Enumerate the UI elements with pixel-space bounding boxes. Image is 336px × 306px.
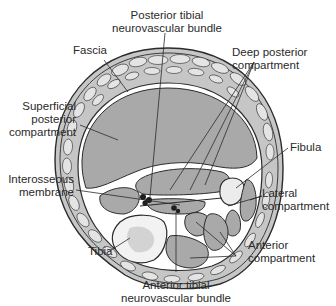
- label-line: neurovascular bundle: [112, 22, 222, 35]
- label-interosseous-membrane: Interosseous membrane: [0, 173, 74, 199]
- label-fascia: Fascia: [73, 44, 107, 57]
- label-line: Superficial: [0, 100, 76, 113]
- label-line: Deep posterior: [232, 46, 307, 59]
- label-line: compartment: [248, 252, 315, 265]
- label-line: Anterior tibial: [120, 279, 232, 292]
- label-line: neurovascular bundle: [120, 292, 232, 305]
- label-deep-posterior-compartment: Deep posterior compartment: [232, 46, 307, 72]
- label-anterior-tibial-bundle: Anterior tibial neurovascular bundle: [120, 279, 232, 305]
- label-line: Fibula: [290, 141, 321, 154]
- label-line: Tibia: [88, 245, 113, 258]
- label-line: Anterior: [248, 239, 315, 252]
- label-superficial-posterior-compartment: Superficial posterior compartment: [0, 100, 76, 139]
- label-anterior-compartment: Anterior compartment: [248, 239, 315, 265]
- label-line: compartment: [0, 126, 76, 139]
- label-line: compartment: [232, 59, 307, 72]
- label-line: Fascia: [73, 44, 107, 57]
- label-line: membrane: [0, 186, 74, 199]
- label-line: Lateral: [262, 187, 329, 200]
- label-line: posterior: [0, 113, 76, 126]
- label-line: Posterior tibial: [112, 9, 222, 22]
- label-line: Interosseous: [0, 173, 74, 186]
- label-tibia: Tibia: [88, 245, 113, 258]
- label-line: compartment: [262, 200, 329, 213]
- label-lateral-compartment: Lateral compartment: [262, 187, 329, 213]
- label-posterior-tibial-bundle: Posterior tibial neurovascular bundle: [112, 9, 222, 35]
- label-fibula: Fibula: [290, 141, 321, 154]
